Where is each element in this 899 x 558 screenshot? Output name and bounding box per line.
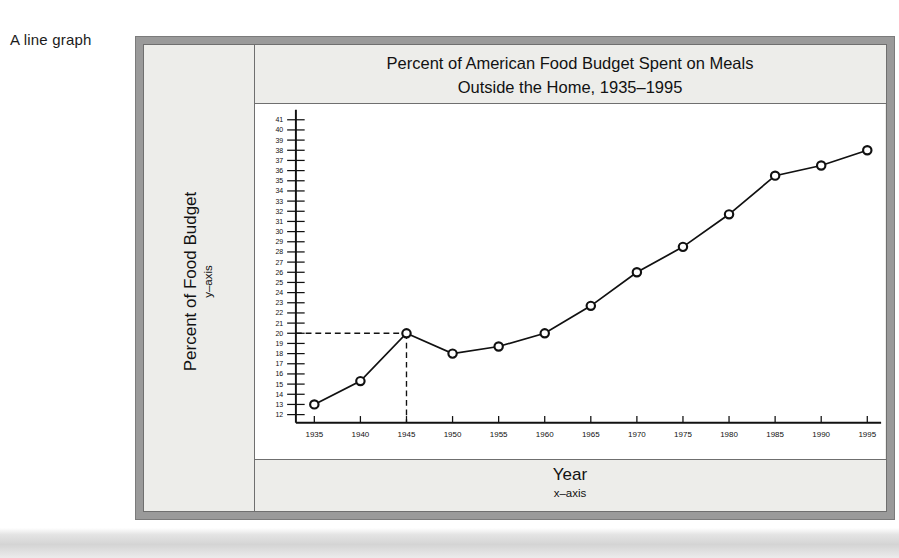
y-tick-label: 37	[275, 157, 283, 164]
y-tick-label: 32	[275, 208, 283, 215]
chart-title-line-2: Outside the Home, 1935–1995	[255, 75, 885, 99]
y-tick-label: 31	[275, 218, 283, 225]
y-tick-label: 13	[275, 401, 283, 408]
y-axis-title: Percent of Food Budget	[182, 192, 202, 372]
y-axis-label-rotated: Percent of Food Budget y–axis	[182, 192, 217, 372]
y-tick-label: 27	[275, 259, 283, 266]
x-tick-label: 1955	[490, 430, 508, 439]
x-tick-label: 1995	[858, 430, 876, 439]
y-tick-label: 24	[275, 289, 283, 296]
y-tick-label: 39	[275, 137, 283, 144]
data-series-markers	[310, 146, 871, 408]
page-bottom-band	[0, 528, 899, 558]
x-axis-title: Year	[255, 464, 885, 486]
data-point-marker	[771, 172, 779, 180]
x-tick-label: 1970	[628, 430, 646, 439]
x-tick-label: 1975	[674, 430, 692, 439]
x-axis-ticks: 1935194019451950195519601965197019751980…	[305, 416, 876, 439]
line-chart-svg: 4140393837363534333231302928272625242322…	[255, 104, 885, 459]
y-tick-label: 29	[275, 238, 283, 245]
y-tick-label: 34	[275, 187, 283, 194]
y-tick-label: 19	[275, 340, 283, 347]
y-tick-label: 28	[275, 248, 283, 255]
x-tick-label: 1935	[305, 430, 323, 439]
data-point-marker	[817, 161, 825, 169]
y-tick-label: 40	[275, 126, 283, 133]
data-series-line	[314, 150, 867, 404]
y-tick-label: 14	[275, 391, 283, 398]
data-point-marker	[587, 302, 595, 310]
y-tick-label: 12	[275, 411, 283, 418]
y-tick-label: 33	[275, 198, 283, 205]
y-tick-label: 25	[275, 279, 283, 286]
plot-area: 4140393837363534333231302928272625242322…	[255, 104, 885, 459]
figure-caption: A line graph	[10, 31, 92, 48]
y-tick-label: 36	[275, 167, 283, 174]
data-point-marker	[679, 243, 687, 251]
axis-lines	[296, 110, 881, 423]
data-point-marker	[310, 400, 318, 408]
x-tick-label: 1945	[398, 430, 416, 439]
y-tick-label: 18	[275, 350, 283, 357]
x-tick-label: 1990	[812, 430, 830, 439]
x-tick-label: 1950	[444, 430, 462, 439]
x-axis-label-container: Year x–axis	[255, 461, 885, 509]
chart-title-line-1: Percent of American Food Budget Spent on…	[387, 54, 754, 72]
x-label-divider	[254, 459, 886, 460]
y-tick-label: 17	[275, 360, 283, 367]
x-tick-label: 1960	[536, 430, 554, 439]
y-tick-label: 21	[275, 320, 283, 327]
x-tick-label: 1965	[582, 430, 600, 439]
data-point-marker	[356, 377, 364, 385]
data-point-marker	[402, 329, 410, 337]
y-tick-label: 26	[275, 269, 283, 276]
y-axis-label-container: Percent of Food Budget y–axis	[144, 104, 254, 459]
y-axis-subtitle: y–axis	[202, 192, 217, 372]
data-point-marker	[863, 146, 871, 154]
figure-panel: Percent of American Food Budget Spent on…	[143, 44, 887, 512]
figure-frame: Percent of American Food Budget Spent on…	[135, 36, 895, 520]
y-tick-label: 22	[275, 309, 283, 316]
x-axis-subtitle: x–axis	[255, 486, 885, 500]
y-tick-label: 20	[275, 330, 283, 337]
guide-lines	[296, 333, 407, 422]
y-tick-label: 23	[275, 299, 283, 306]
data-point-marker	[725, 210, 733, 218]
y-tick-label: 35	[275, 177, 283, 184]
data-point-marker	[494, 342, 502, 350]
y-tick-label: 30	[275, 228, 283, 235]
x-tick-label: 1985	[766, 430, 784, 439]
y-tick-label: 38	[275, 147, 283, 154]
data-point-marker	[448, 349, 456, 357]
data-point-marker	[541, 329, 549, 337]
y-tick-label: 41	[275, 116, 283, 123]
y-tick-label: 15	[275, 381, 283, 388]
data-point-marker	[633, 268, 641, 276]
y-axis-ticks: 4140393837363534333231302928272625242322…	[275, 116, 304, 418]
x-tick-label: 1980	[720, 430, 738, 439]
chart-title: Percent of American Food Budget Spent on…	[255, 51, 885, 99]
x-tick-label: 1940	[352, 430, 370, 439]
y-tick-label: 16	[275, 370, 283, 377]
